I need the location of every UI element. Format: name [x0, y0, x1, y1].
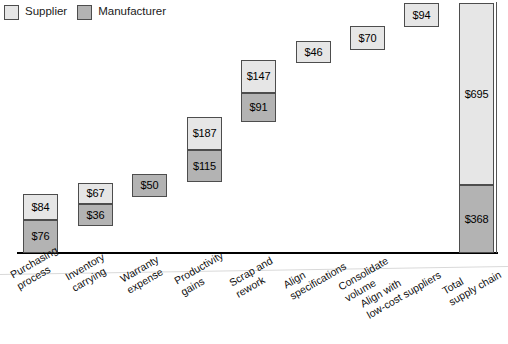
bar-segment-supplier[interactable]: $94 — [404, 3, 439, 27]
bar-segment-supplier[interactable]: $70 — [350, 26, 385, 50]
bar-segment-supplier[interactable]: $46 — [296, 41, 331, 63]
category-label-8: Totalsupply chain — [440, 257, 503, 308]
bar-segment-manufacturer[interactable]: $368 — [459, 185, 494, 253]
bar-value-label: $67 — [87, 188, 105, 199]
plot-area: $84$76$67$36$50$187$115$147$91$46$70$94$… — [0, 0, 508, 256]
bar-value-label: $368 — [465, 214, 489, 225]
bar-1[interactable]: $67$36 — [78, 0, 113, 256]
bar-value-label: $70 — [359, 33, 377, 44]
bar-value-label: $147 — [247, 71, 271, 82]
bar-5[interactable]: $46 — [296, 0, 331, 256]
bar-segment-supplier[interactable]: $67 — [78, 183, 113, 204]
bar-value-label: $46 — [305, 47, 323, 58]
bar-4[interactable]: $147$91 — [241, 0, 276, 256]
bar-segment-supplier[interactable]: $187 — [187, 117, 222, 150]
bar-value-label: $94 — [413, 10, 431, 21]
bar-6[interactable]: $70 — [350, 0, 385, 256]
bar-0[interactable]: $84$76 — [23, 0, 58, 256]
bar-value-label: $91 — [250, 102, 268, 113]
right-axis-line — [496, 2, 497, 253]
bar-segment-manufacturer[interactable]: $91 — [241, 93, 276, 122]
bar-segment-manufacturer[interactable]: $115 — [187, 150, 222, 182]
category-label-1: Inventorycarrying — [63, 250, 113, 293]
bar-3[interactable]: $187$115 — [187, 0, 222, 256]
category-label-3: Productivitygains — [172, 249, 232, 298]
bar-value-label: $36 — [87, 210, 105, 221]
bar-value-label: $84 — [32, 202, 50, 213]
bar-2[interactable]: $50 — [132, 0, 167, 256]
bar-segment-manufacturer[interactable]: $36 — [78, 204, 113, 226]
category-label-4: Scrap andrework — [227, 254, 281, 300]
category-label-2: Warrantyexpense — [118, 253, 167, 296]
bar-segment-supplier[interactable]: $147 — [241, 60, 276, 93]
bar-segment-supplier[interactable]: $695 — [459, 3, 494, 185]
bar-segment-manufacturer[interactable]: $50 — [132, 174, 167, 197]
bar-value-label: $187 — [193, 128, 217, 139]
waterfall-chart: SupplierManufacturer $84$76$67$36$50$187… — [0, 0, 508, 344]
bar-7[interactable]: $94 — [404, 0, 439, 256]
bar-8[interactable]: $695$368 — [459, 0, 494, 256]
bar-value-label: $695 — [465, 89, 489, 100]
bar-segment-supplier[interactable]: $84 — [23, 194, 58, 220]
bar-value-label: $76 — [32, 231, 50, 242]
bar-value-label: $115 — [193, 161, 216, 172]
category-axis: PurchasingprocessInventorycarryingWarran… — [0, 256, 508, 344]
bar-value-label: $50 — [141, 180, 159, 191]
category-label-5: Alignspecifications — [281, 248, 348, 301]
